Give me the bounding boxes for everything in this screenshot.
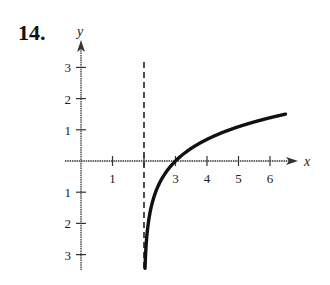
y-tick-label: 3: [65, 60, 72, 75]
y-tick-label: 3: [65, 248, 72, 263]
x-tick-label: 6: [267, 171, 274, 186]
y-tick-label: 1: [65, 123, 72, 138]
y-tick-label: 2: [65, 92, 72, 107]
axes: xy: [65, 24, 311, 270]
x-tick-label: 5: [235, 171, 242, 186]
y-tick-label: 1: [65, 185, 72, 200]
function-curve: [145, 114, 285, 268]
x-axis-label: x: [303, 154, 311, 169]
graph: xy 13456321123: [0, 0, 330, 285]
curve-path: [145, 114, 285, 268]
x-tick-label: 1: [109, 171, 116, 186]
y-tick-label: 2: [65, 216, 72, 231]
x-tick-label: 3: [172, 171, 179, 186]
y-axis-arrow-icon: [77, 40, 85, 52]
y-axis-label: y: [75, 24, 84, 39]
x-tick-label: 4: [204, 171, 211, 186]
x-axis-arrow-icon: [286, 157, 298, 165]
